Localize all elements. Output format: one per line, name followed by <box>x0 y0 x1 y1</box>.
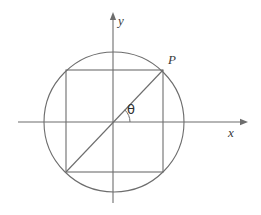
y-axis-label: y <box>118 14 124 27</box>
angle-theta-label: θ <box>127 103 135 116</box>
diagonal-radius-line <box>66 70 163 172</box>
x-axis-label: x <box>228 126 234 139</box>
geometry-figure: y x P θ <box>0 0 261 215</box>
y-axis <box>110 12 116 203</box>
x-axis-arrowhead-icon <box>240 119 248 125</box>
y-axis-arrowhead-icon <box>110 12 116 20</box>
x-axis <box>18 119 248 125</box>
point-p-label: P <box>168 53 176 66</box>
